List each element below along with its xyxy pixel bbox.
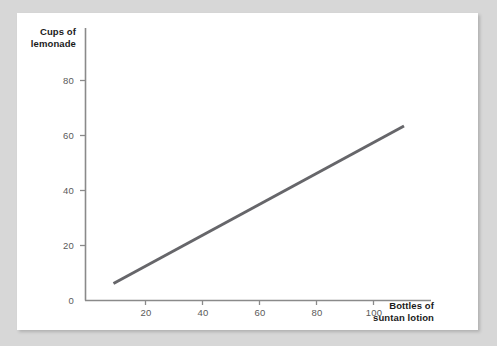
y-tick-label-40: 40 [48,185,74,196]
y-tick-label-0: 0 [48,295,74,306]
x-tick-label-20: 20 [133,307,159,318]
x-tick-label-80: 80 [304,307,330,318]
y-axis-title-line-1: Cups of [18,26,76,38]
y-tick-label-80: 80 [48,75,74,86]
x-tick-label-60: 60 [247,307,273,318]
trend-line [114,126,405,284]
chart-page: Cups of lemonade Bottles of suntan lotio… [0,0,497,346]
chart-plot-area [0,0,497,346]
y-axis-title: Cups of lemonade [18,26,76,49]
y-axis-title-line-2: lemonade [18,38,76,50]
y-tick-label-60: 60 [48,130,74,141]
x-tick-label-40: 40 [190,307,216,318]
y-tick-label-20: 20 [48,240,74,251]
x-tick-label-100: 100 [361,307,387,318]
